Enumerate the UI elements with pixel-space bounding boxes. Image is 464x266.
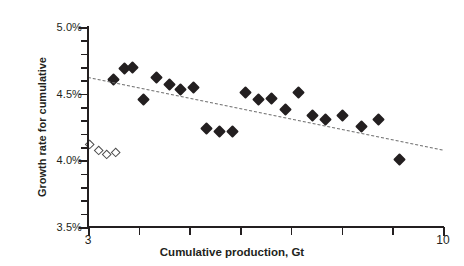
data-point-filled-diamond [200, 122, 213, 135]
y-tick-label: 3.5% [57, 221, 82, 233]
x-tick [139, 227, 141, 235]
data-point-filled-diamond [279, 103, 292, 116]
y-axis-line [87, 26, 89, 228]
data-point-filled-diamond [187, 81, 200, 94]
data-point-filled-diamond [226, 125, 239, 138]
data-point-filled-diamond [252, 93, 265, 106]
y-tick-labels: 3.5%4.0%4.5%5.0% [0, 0, 82, 266]
chart-figure: Growth rate for cumulative 3.5%4.0%4.5%5… [0, 0, 464, 266]
x-tick-label: 3 [85, 233, 92, 247]
y-tick-label: 4.0% [57, 154, 82, 166]
x-tick [240, 227, 242, 235]
x-tick [291, 227, 293, 235]
x-axis-line [87, 226, 444, 228]
data-point-filled-diamond [126, 61, 139, 74]
data-point-filled-diamond [393, 153, 406, 166]
y-tick-label: 5.0% [57, 21, 82, 33]
data-point-filled-diamond [306, 109, 319, 122]
data-point-open-diamond [110, 148, 120, 158]
y-tick-label: 4.5% [57, 88, 82, 100]
x-axis-title: Cumulative production, Gt [160, 246, 304, 258]
data-point-filled-diamond [372, 113, 385, 126]
data-point-filled-diamond [137, 93, 150, 106]
data-point-filled-diamond [336, 109, 349, 122]
data-point-filled-diamond [151, 71, 164, 84]
x-tick [392, 227, 394, 235]
x-tick [189, 227, 191, 235]
data-point-filled-diamond [355, 120, 368, 133]
x-tick [342, 227, 344, 235]
data-point-filled-diamond [174, 83, 187, 96]
trendline [88, 77, 443, 151]
data-point-filled-diamond [265, 92, 278, 105]
data-point-filled-diamond [213, 125, 226, 138]
data-point-filled-diamond [293, 86, 306, 99]
plot-area: Growth rate for cumulative [88, 27, 443, 227]
data-point-filled-diamond [239, 86, 252, 99]
x-tick-label: 10 [436, 233, 449, 247]
